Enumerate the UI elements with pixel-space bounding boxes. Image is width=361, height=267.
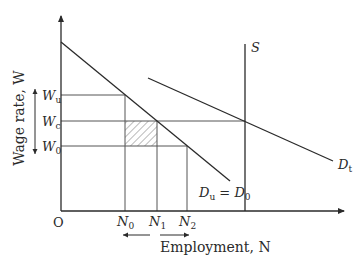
supply-label: S: [251, 40, 260, 55]
labour-market-diagram: Wage rate, W O Wu Wc W0 N0 N1 N2 Employm…: [0, 0, 361, 267]
origin-label: O: [53, 215, 64, 230]
demand-total-curve: [148, 78, 333, 161]
wage-label-w0: W0: [42, 139, 61, 156]
demand-union-label: Du = D0: [198, 185, 251, 202]
wage-label-wc: Wc: [42, 114, 60, 131]
wage-label-wu: Wu: [42, 88, 61, 105]
hatched-area: [125, 121, 157, 146]
demand-total-label: Dt: [337, 157, 352, 174]
y-axis-label: Wage rate, W: [11, 70, 27, 166]
x-axis-label: Employment, N: [160, 239, 271, 255]
employment-label-n0: N0: [116, 214, 134, 231]
demand-union-curve: [61, 42, 230, 181]
employment-label-n2: N2: [178, 214, 196, 231]
employment-label-n1: N1: [148, 214, 166, 231]
